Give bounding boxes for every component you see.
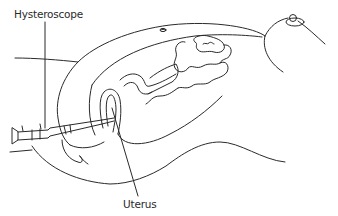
hysteroscope-port (22, 124, 41, 131)
hysteroscope-body-top (18, 120, 102, 132)
hysteroscope-tip (102, 118, 114, 120)
intestines-lower (148, 64, 178, 94)
intestines-upper (194, 35, 225, 52)
cavity-back (89, 85, 95, 135)
thigh-curve (32, 142, 285, 184)
labia-detail (62, 140, 88, 164)
pelvic-curve (118, 96, 222, 144)
illustration-canvas (0, 0, 338, 216)
breast-top (265, 18, 288, 36)
intestines-loop (146, 88, 178, 104)
uterus-label: Uterus (123, 199, 157, 210)
back-contour (57, 62, 78, 145)
torso-outline (15, 23, 265, 62)
intestines-right (220, 45, 231, 63)
uterus-inner (106, 95, 116, 132)
thigh-upper (10, 150, 32, 152)
breast-right (298, 21, 325, 44)
intestines (174, 42, 228, 88)
intestines-detail (203, 42, 214, 44)
areola (286, 18, 304, 26)
bowel-channel-bottom (124, 82, 152, 94)
abdominal-wall (92, 35, 262, 85)
breast-outline (264, 36, 283, 72)
vaginal-wall (70, 142, 104, 148)
hysteroscope-eyepiece (12, 128, 18, 144)
hysteroscope-label: Hysteroscope (14, 9, 83, 20)
hysteroscopy-diagram: Hysteroscope Uterus (0, 0, 338, 216)
navel-detail (161, 29, 165, 30)
